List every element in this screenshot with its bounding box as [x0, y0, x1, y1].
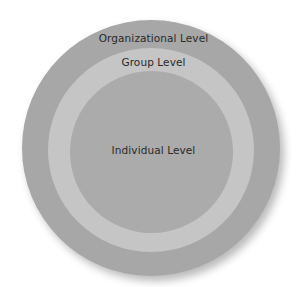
levels-diagram: Organizational Level Group Level Individ… [0, 0, 307, 287]
individual-level-label: Individual Level [0, 144, 307, 156]
organizational-level-label: Organizational Level [0, 32, 307, 44]
group-level-label: Group Level [0, 56, 307, 68]
